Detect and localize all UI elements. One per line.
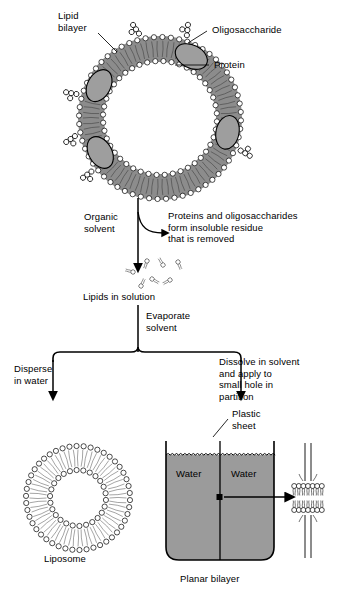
- leader-oligosaccharide: [188, 31, 207, 43]
- flow-arrow-organic-solvent: [138, 198, 163, 264]
- membrane-vesicle: [61, 20, 256, 201]
- caption-planar-bilayer: Planar bilayer: [180, 573, 240, 585]
- label-disperse-in-water: Disperse in water: [14, 363, 52, 386]
- figure-canvas: Lipid bilayer Oligosaccharide Protein Or…: [0, 0, 339, 600]
- caption-liposome: Liposome: [44, 553, 86, 565]
- label-lipids-in-solution: Lipids in solution: [83, 291, 155, 303]
- bilayer-closeup: [292, 443, 325, 558]
- label-organic-solvent: Organic solvent: [84, 211, 118, 234]
- branch-arrow-residue: [138, 212, 163, 233]
- label-water-right: Water: [231, 468, 256, 480]
- leader-lipid-bilayer: [98, 33, 117, 52]
- liposome-diagram: [23, 443, 132, 552]
- lipids-in-solution-cluster: [125, 257, 183, 289]
- diagram-svg: [0, 0, 339, 600]
- label-oligosaccharide: Oligosaccharide: [212, 24, 282, 36]
- leader-plastic-sheet: [213, 419, 228, 437]
- label-plastic-sheet: Plastic sheet: [232, 408, 261, 431]
- label-insoluble-residue: Proteins and oligosaccharides form insol…: [168, 210, 298, 245]
- bilayer-hole: [217, 494, 223, 500]
- label-lipid-bilayer: Lipid bilayer: [58, 10, 87, 33]
- label-evaporate-solvent: Evaporate solvent: [146, 310, 190, 333]
- label-protein: Protein: [214, 59, 245, 71]
- label-water-left: Water: [176, 468, 201, 480]
- label-dissolve-in-solvent: Dissolve in solvent and apply to small h…: [219, 356, 300, 402]
- planar-bilayer-chamber: [166, 419, 286, 560]
